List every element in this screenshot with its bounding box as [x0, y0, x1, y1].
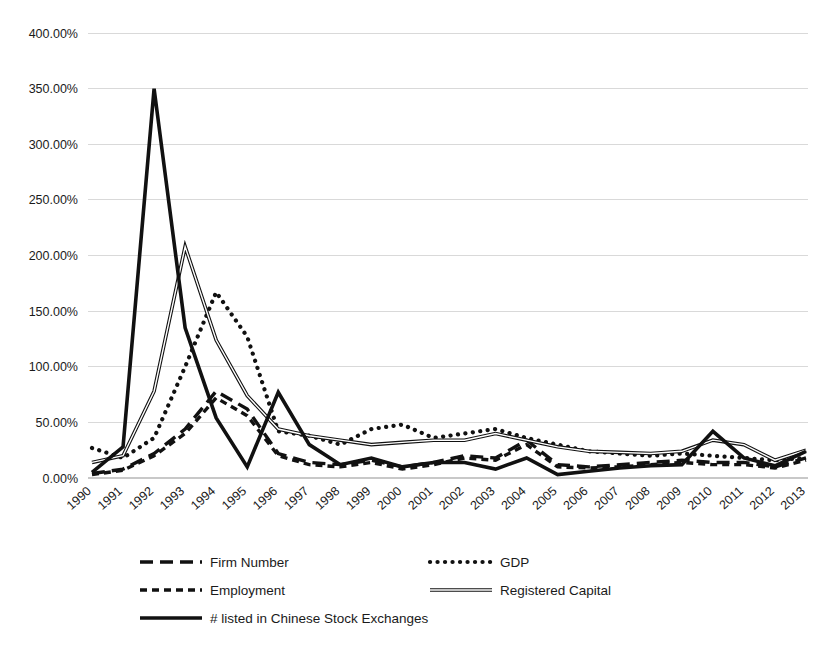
- x-tick-label-1990: 1990: [64, 484, 94, 513]
- x-tick-label-2012: 2012: [747, 484, 777, 513]
- y-tick-label: 350.00%: [29, 82, 78, 96]
- gridlines: [88, 33, 808, 478]
- legend-item-gdp[interactable]: GDP: [430, 555, 529, 570]
- x-tick-label-1995: 1995: [219, 484, 249, 513]
- legend-item-employment[interactable]: Employment: [140, 583, 285, 598]
- legend-item--listed-in-chinese-stock-exchanges[interactable]: # listed in Chinese Stock Exchanges: [140, 611, 429, 626]
- x-tick-label-1997: 1997: [281, 484, 311, 513]
- x-tick-label-2000: 2000: [374, 484, 404, 513]
- y-tick-label: 200.00%: [29, 249, 78, 263]
- y-tick-label: 400.00%: [29, 27, 78, 41]
- x-tick-label-2013: 2013: [778, 484, 808, 513]
- x-tick-label-2001: 2001: [405, 484, 435, 513]
- x-tick-label-1993: 1993: [157, 484, 187, 513]
- legend-label: GDP: [500, 555, 529, 570]
- y-tick-label: 50.00%: [36, 416, 78, 430]
- x-tick-label-2007: 2007: [592, 484, 622, 513]
- chart-legend: Firm NumberGDPEmploymentRegistered Capit…: [140, 555, 611, 626]
- x-tick-label-2010: 2010: [685, 484, 715, 513]
- x-tick-label-2009: 2009: [654, 484, 684, 513]
- x-tick-label-2008: 2008: [623, 484, 653, 513]
- chart-container: 0.00%50.00%100.00%150.00%200.00%250.00%3…: [0, 0, 832, 647]
- x-tick-label-2006: 2006: [561, 484, 591, 513]
- series-line-inner: [92, 247, 806, 463]
- series-line-gdp: [92, 292, 806, 460]
- legend-item-registered-capital[interactable]: Registered Capital: [430, 583, 611, 598]
- legend-label: # listed in Chinese Stock Exchanges: [210, 611, 429, 626]
- y-tick-label: 0.00%: [43, 472, 78, 486]
- y-axis-tick-labels: 0.00%50.00%100.00%150.00%200.00%250.00%3…: [29, 27, 78, 486]
- x-axis-tick-labels: 1990199119921993199419951996199719981999…: [64, 484, 808, 513]
- y-tick-label: 300.00%: [29, 138, 78, 152]
- x-tick-label-1998: 1998: [312, 484, 342, 513]
- growth-rate-line-chart: 0.00%50.00%100.00%150.00%200.00%250.00%3…: [0, 0, 832, 647]
- y-tick-label: 150.00%: [29, 305, 78, 319]
- x-tick-label-1994: 1994: [188, 484, 218, 513]
- legend-label: Registered Capital: [500, 583, 611, 598]
- x-tick-label-1996: 1996: [250, 484, 280, 513]
- data-series-group: [92, 89, 806, 475]
- x-tick-label-2005: 2005: [530, 484, 560, 513]
- legend-label: Firm Number: [210, 555, 289, 570]
- x-tick-label-1992: 1992: [126, 484, 156, 513]
- y-tick-label: 100.00%: [29, 360, 78, 374]
- x-tick-label-1991: 1991: [95, 484, 125, 513]
- x-tick-label-2011: 2011: [717, 484, 746, 512]
- x-tick-label-2003: 2003: [468, 484, 498, 513]
- x-tick-label-2002: 2002: [436, 484, 466, 513]
- legend-item-firm-number[interactable]: Firm Number: [140, 555, 289, 570]
- legend-label: Employment: [210, 583, 285, 598]
- series-line-registered-capital: [92, 247, 806, 463]
- x-tick-label-1999: 1999: [343, 484, 373, 513]
- y-tick-label: 250.00%: [29, 193, 78, 207]
- x-tick-label-2004: 2004: [499, 484, 529, 513]
